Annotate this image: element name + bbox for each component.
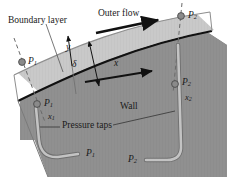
p2-outer-point — [178, 13, 185, 20]
p2-wall-point — [172, 81, 179, 88]
p2-wall-label: P2 — [182, 78, 191, 88]
p2-tube-label: P2 — [128, 155, 137, 165]
p1-outer-point — [19, 59, 26, 66]
p1-wall-point — [34, 101, 41, 108]
p1-outer-subscript: 1 — [34, 59, 37, 66]
p1-tube-subscript: 1 — [92, 151, 95, 158]
p2-wall-subscript: 2 — [188, 80, 191, 87]
p1-wall-label: P1 — [44, 99, 53, 109]
p2-outer-label: P2 — [188, 11, 197, 21]
x1-label: x1 — [48, 112, 55, 121]
p1-wall-subscript: 1 — [50, 101, 53, 108]
pressure-taps-label: Pressure taps — [62, 121, 112, 131]
p1-outer-label: P1 — [28, 57, 37, 67]
boundary-layer-figure: Boundary layer Outer flow Wall Pressure … — [0, 0, 227, 177]
x2-subscript: 2 — [189, 96, 192, 102]
delta-label: δ — [72, 60, 76, 70]
x1-subscript: 1 — [52, 115, 55, 121]
p1-tube-label: P1 — [86, 149, 95, 159]
figure-canvas — [0, 0, 227, 177]
y-axis-label: y — [66, 43, 70, 53]
x-axis-label: x — [114, 59, 118, 69]
boundary-layer-label: Boundary layer — [8, 16, 67, 26]
p2-tube-subscript: 2 — [134, 157, 137, 164]
outer-flow-label: Outer flow — [98, 9, 139, 19]
wall-label: Wall — [120, 102, 138, 112]
p2-outer-subscript: 2 — [194, 13, 197, 20]
x2-label: x2 — [185, 93, 192, 102]
boundary-layer-left-edge — [14, 75, 18, 101]
